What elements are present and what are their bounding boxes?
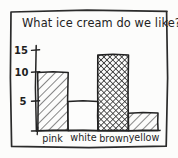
chart-plot-area: What ice cream do we like? 15 10 5 (0, 0, 178, 158)
x-tick-label-yellow: yellow (129, 132, 160, 143)
paper-sheet: What ice cream do we like? 15 10 5 (0, 0, 178, 158)
bar-brown[interactable] (98, 54, 129, 131)
chart-title: What ice cream do we like? (22, 16, 178, 30)
bar-yellow[interactable] (128, 112, 158, 130)
bar-pink[interactable] (38, 72, 69, 131)
bar-white[interactable] (68, 101, 98, 131)
y-tick-label-15: 15 (14, 45, 28, 56)
y-tick-label-10: 10 (15, 67, 29, 78)
x-tick-label-brown: brown (99, 133, 129, 144)
x-tick-label-white: white (70, 132, 96, 143)
y-tick-label-5: 5 (20, 96, 27, 107)
y-axis (35, 46, 36, 132)
x-tick-label-pink: pink (42, 133, 63, 144)
